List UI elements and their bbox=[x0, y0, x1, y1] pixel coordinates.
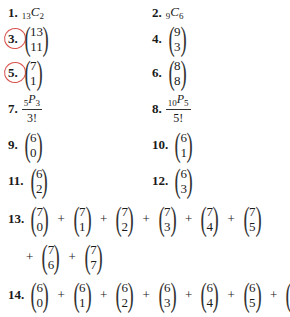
problem-number: 13. bbox=[8, 211, 24, 227]
problem-11: 11. (62) bbox=[8, 164, 51, 198]
problem-1: 1. 13C2 bbox=[8, 4, 44, 21]
combination-expression: 9C6 bbox=[166, 4, 184, 21]
problem-7: 7. 5P33! bbox=[8, 92, 42, 126]
binomial-term: (76) bbox=[39, 240, 62, 274]
problem-9: 9. (60) bbox=[8, 128, 45, 162]
problem-5: 5. (71) bbox=[8, 56, 45, 90]
combination-expression: 13C2 bbox=[22, 4, 44, 21]
binomial-coefficient: (62) bbox=[28, 164, 51, 198]
binomial-term: (77) bbox=[82, 240, 105, 274]
binomial-coefficient: (71) bbox=[22, 56, 45, 90]
problem-number-circled: 3. bbox=[8, 31, 18, 47]
problem-number: 9. bbox=[8, 137, 18, 153]
binomial-coefficient: (61) bbox=[172, 128, 195, 162]
binomial-coefficient: (88) bbox=[166, 56, 189, 90]
binomial-term: (66) bbox=[283, 278, 290, 312]
binomial-term: (70) bbox=[28, 202, 51, 236]
binomial-term: (60) bbox=[28, 278, 51, 312]
binomial-term: (61) bbox=[71, 278, 94, 312]
binomial-term: (65) bbox=[241, 278, 264, 312]
problem-number: 7. bbox=[8, 101, 18, 117]
fraction: 5P33! bbox=[22, 92, 42, 126]
binomial-term: (62) bbox=[113, 278, 136, 312]
problem-8: 8. 10P55! bbox=[152, 92, 191, 126]
problem-6: 6. (88) bbox=[152, 56, 189, 90]
problem-number-circled: 5. bbox=[8, 65, 18, 81]
problem-number: 6. bbox=[152, 65, 162, 81]
problem-number: 4. bbox=[152, 31, 162, 47]
problem-2: 2. 9C6 bbox=[152, 4, 183, 21]
fraction: 10P55! bbox=[166, 92, 191, 126]
binomial-coefficient: (1311) bbox=[22, 22, 52, 56]
problem-10: 10. (61) bbox=[152, 128, 195, 162]
binomial-term: (63) bbox=[156, 278, 179, 312]
problem-number: 1. bbox=[8, 5, 18, 21]
problem-4: 4. (93) bbox=[152, 22, 189, 56]
binomial-term: (74) bbox=[198, 202, 221, 236]
problem-number: 8. bbox=[152, 101, 162, 117]
problem-number: 11. bbox=[8, 173, 24, 189]
binomial-term: (75) bbox=[241, 202, 264, 236]
problem-12: 12. (63) bbox=[152, 164, 195, 198]
binomial-coefficient: (60) bbox=[22, 128, 45, 162]
binomial-term: (73) bbox=[156, 202, 179, 236]
problem-13-continued: + (76) + (77) bbox=[26, 240, 105, 274]
problem-number: 12. bbox=[152, 173, 168, 189]
binomial-term: (64) bbox=[198, 278, 221, 312]
problem-number: 14. bbox=[8, 287, 24, 303]
problem-number: 10. bbox=[152, 137, 168, 153]
binomial-coefficient: (93) bbox=[166, 22, 189, 56]
problem-3: 3. (1311) bbox=[8, 22, 51, 56]
problem-number: 2. bbox=[152, 5, 162, 21]
binomial-coefficient: (63) bbox=[172, 164, 195, 198]
problem-13: 13. (70) + (71) + (72) + (73) + (74) + (… bbox=[8, 202, 264, 236]
binomial-term: (72) bbox=[113, 202, 136, 236]
problem-14: 14. (60) + (61) + (62) + (63) + (64) + (… bbox=[8, 278, 290, 312]
binomial-term: (71) bbox=[71, 202, 94, 236]
